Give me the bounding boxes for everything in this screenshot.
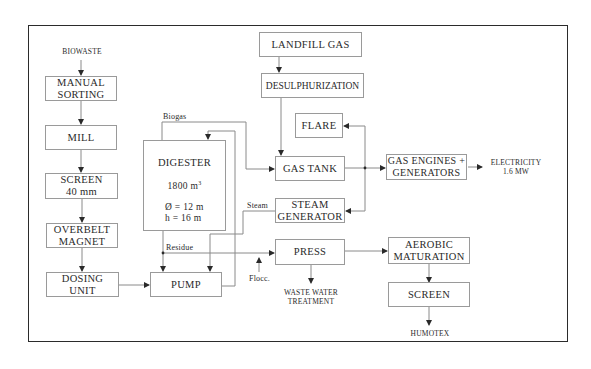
node-label: LANDFILL GAS	[271, 39, 349, 51]
node-label: SORTING	[57, 89, 105, 101]
node-label: MILL	[68, 132, 95, 144]
output-waste-water-treatment: WASTE WATER TREATMENT	[277, 288, 345, 306]
node-label: STEAM	[278, 199, 343, 211]
flow-label-steam: Steam	[247, 201, 268, 210]
node-label: DESULPHURIZATION	[266, 80, 359, 92]
node-gas-tank[interactable]: GAS TANK	[275, 156, 345, 181]
node-gas-engines-generators[interactable]: GAS ENGINES +GENERATORS	[386, 154, 467, 180]
node-dosing-unit[interactable]: DOSINGUNIT	[46, 272, 119, 297]
node-label: GAS TANK	[283, 163, 337, 175]
process-flow-diagram: BIOWASTE MANUALSORTING MILL SCREEN40 mm …	[0, 0, 591, 369]
node-label: SCREEN	[60, 174, 102, 186]
node-label: OVERBELT	[54, 224, 110, 236]
flow-label-biogas: Biogas	[163, 112, 186, 121]
node-screen-40mm[interactable]: SCREEN40 mm	[45, 173, 118, 199]
node-manual-sorting[interactable]: MANUALSORTING	[45, 76, 117, 101]
node-label: UNIT	[62, 285, 103, 297]
node-label: PRESS	[294, 246, 326, 258]
node-flare[interactable]: FLARE	[295, 113, 343, 138]
node-label: MATURATION	[393, 251, 464, 263]
node-label: MAGNET	[54, 236, 110, 248]
output-humotex: HUMOTEX	[400, 329, 460, 338]
node-label: FLARE	[302, 120, 337, 132]
flow-label-residue: Residue	[166, 243, 193, 252]
node-mill[interactable]: MILL	[45, 125, 117, 150]
node-label: 40 mm	[60, 186, 102, 198]
node-steam-generator[interactable]: STEAMGENERATOR	[275, 198, 345, 223]
input-landfill-gas[interactable]: LANDFILL GAS	[259, 32, 362, 57]
node-label: AEROBIC	[393, 239, 464, 251]
node-label: GENERATOR	[278, 211, 343, 223]
output-electricity: ELECTRICITY 1.6 MW	[486, 158, 546, 176]
flow-label-flocc: Flocc.	[249, 274, 270, 283]
node-pump[interactable]: PUMP	[150, 272, 222, 297]
node-aerobic-maturation[interactable]: AEROBICMATURATION	[388, 237, 470, 264]
input-biowaste: BIOWASTE	[55, 47, 109, 56]
digester-title: DIGESTER	[144, 157, 225, 169]
digester-volume: 1800 m3	[144, 177, 225, 192]
node-label: MANUAL	[57, 77, 105, 89]
node-digester[interactable]: DIGESTER 1800 m3 Ø = 12 m h = 16 m	[143, 140, 226, 231]
node-label: SCREEN	[408, 289, 450, 301]
node-label: GAS ENGINES +	[388, 155, 465, 167]
node-press[interactable]: PRESS	[275, 239, 345, 265]
node-desulphurization[interactable]: DESULPHURIZATION	[261, 73, 364, 98]
node-label: DOSING	[62, 273, 103, 285]
node-label: GENERATORS	[388, 167, 465, 179]
node-overbelt-magnet[interactable]: OVERBELTMAGNET	[46, 223, 118, 248]
node-screen-final[interactable]: SCREEN	[388, 282, 470, 307]
node-label: PUMP	[171, 279, 201, 291]
digester-height: h = 16 m	[165, 212, 202, 224]
